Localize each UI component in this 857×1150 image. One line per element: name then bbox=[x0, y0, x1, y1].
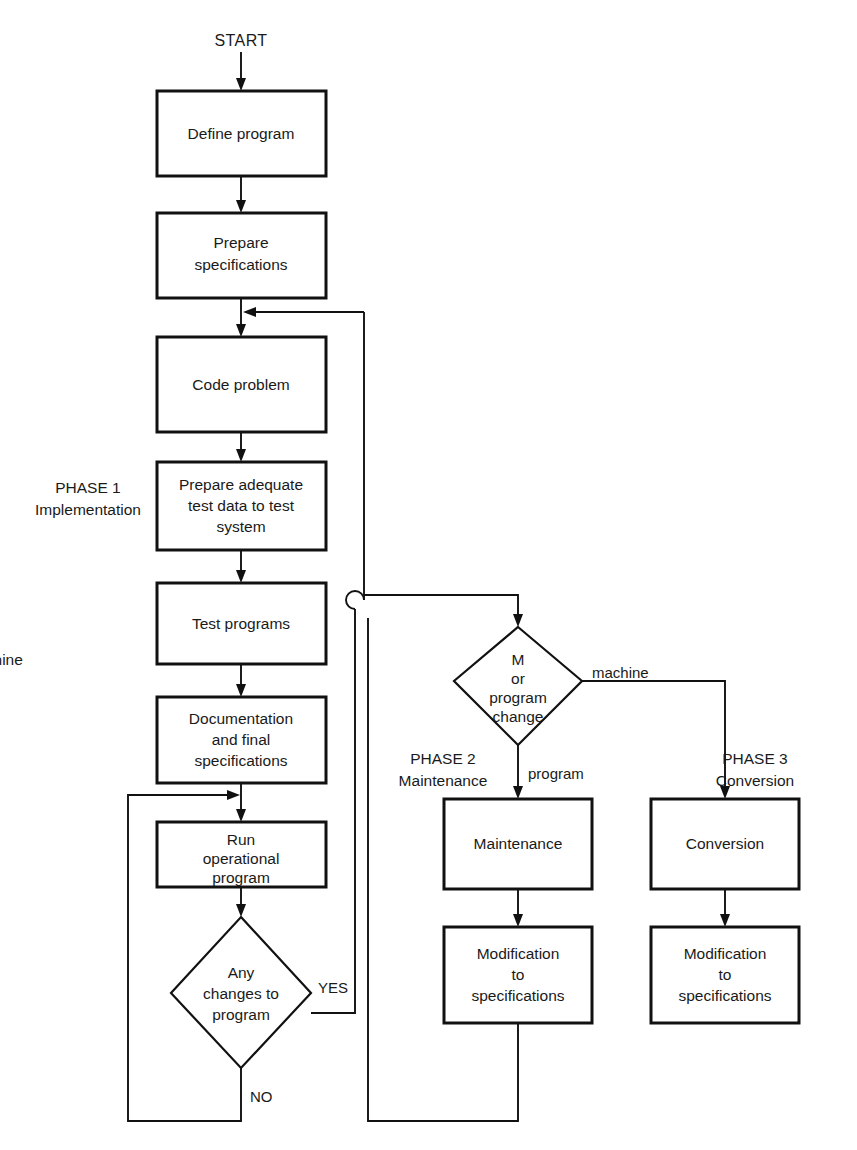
node-code-problem-line-0: Code problem bbox=[192, 376, 289, 393]
node-modspec2-line-1: to bbox=[512, 966, 525, 983]
node-modspec3-line-1: to bbox=[719, 966, 732, 983]
node-prepare-test-data[interactable]: Prepare adequate test data to test syste… bbox=[157, 462, 326, 550]
node-machine-line-1: or bbox=[511, 670, 525, 687]
node-modification-to-specifications-phase3[interactable]: Modification to specifications bbox=[651, 927, 799, 1023]
edge-yes-riser bbox=[311, 609, 355, 1013]
node-define-program[interactable]: Define program bbox=[157, 91, 326, 176]
flowchart-canvas: START Define program Prepare specificati… bbox=[0, 0, 857, 1150]
node-code-problem[interactable]: Code problem bbox=[157, 337, 326, 432]
arrowhead-anychanges bbox=[236, 904, 246, 917]
node-test-programs[interactable]: Test programs bbox=[157, 583, 326, 664]
node-any-changes-line-2: program bbox=[212, 1006, 270, 1023]
edge-label-yes: YES bbox=[318, 979, 348, 996]
node-prepare-specifications-line-1: specifications bbox=[194, 256, 287, 273]
edge-to-machine-diamond bbox=[364, 595, 518, 617]
phase-1-name: Implementation bbox=[35, 501, 141, 518]
arrowhead-prepare bbox=[236, 200, 246, 213]
edge-label-no: NO bbox=[250, 1088, 273, 1105]
edge-machine-to-conversion bbox=[582, 681, 725, 789]
node-modspec2-line-2: specifications bbox=[471, 987, 564, 1004]
node-run-line-1: operational bbox=[203, 850, 280, 867]
phase-2-number: PHASE 2 bbox=[410, 750, 475, 767]
node-machine-line-3: change bbox=[493, 708, 544, 725]
node-conversion-line-0: Conversion bbox=[686, 835, 764, 852]
node-any-changes-to-program[interactable]: Any changes to program bbox=[171, 917, 311, 1068]
node-modspec3-line-2: specifications bbox=[678, 987, 771, 1004]
node-prepare-specifications-line-0: Prepare bbox=[213, 234, 268, 251]
node-prepare-test-data-line-0: Prepare adequate bbox=[179, 476, 303, 493]
phase-label-1: PHASE 1 Implementation bbox=[35, 479, 141, 518]
edge-yes-hop bbox=[346, 591, 364, 609]
node-define-program-line-0: Define program bbox=[188, 125, 295, 142]
flowchart-svg: START Define program Prepare specificati… bbox=[0, 0, 857, 1150]
node-conversion[interactable]: Conversion bbox=[651, 799, 799, 889]
node-machine-line-2: program bbox=[489, 689, 547, 706]
edge-label-program: program bbox=[528, 765, 584, 782]
node-prepare-specifications[interactable]: Prepare specifications bbox=[157, 213, 326, 298]
node-documentation[interactable]: Documentation and final specifications bbox=[157, 697, 326, 783]
node-run-operational-program[interactable]: Run operational program bbox=[157, 822, 326, 887]
start-label: START bbox=[215, 32, 268, 49]
arrowhead-documentation bbox=[236, 684, 246, 697]
node-maintenance[interactable]: Maintenance bbox=[444, 799, 592, 889]
arrowhead-feedback-into-code bbox=[243, 307, 256, 317]
arrowhead-modspec3 bbox=[720, 914, 730, 927]
arrowhead-code bbox=[236, 324, 246, 337]
node-modspec2-line-0: Modification bbox=[477, 945, 560, 962]
arrowhead-testprograms bbox=[236, 570, 246, 583]
node-documentation-line-1: and final bbox=[212, 731, 271, 748]
node-run-line-0: Run bbox=[227, 831, 255, 848]
node-prepare-test-data-line-2: system bbox=[216, 518, 265, 535]
phase-label-2: PHASE 2 Maintenance bbox=[399, 750, 488, 789]
node-run-line-2: program bbox=[212, 869, 270, 886]
arrowhead-machine-diamond bbox=[513, 614, 523, 627]
node-modification-to-specifications-phase2[interactable]: Modification to specifications bbox=[444, 927, 592, 1023]
node-documentation-line-0: Documentation bbox=[189, 710, 293, 727]
node-maintenance-line-0: Maintenance bbox=[474, 835, 563, 852]
arrowhead-maintenance bbox=[513, 786, 523, 799]
node-test-programs-line-0: Test programs bbox=[192, 615, 290, 632]
edge-label-machine: machine bbox=[592, 664, 649, 681]
phase-1-number: PHASE 1 bbox=[55, 479, 120, 496]
node-documentation-line-2: specifications bbox=[194, 752, 287, 769]
node-prepare-test-data-line-1: test data to test bbox=[188, 497, 295, 514]
phase-2-name: Maintenance bbox=[399, 772, 488, 789]
phase-3-number: PHASE 3 bbox=[722, 750, 787, 767]
arrowhead-modspec2 bbox=[513, 914, 523, 927]
node-any-changes-line-0: Any bbox=[228, 964, 255, 981]
arrowhead-no-return bbox=[227, 790, 240, 800]
node-modspec3-line-0: Modification bbox=[684, 945, 767, 962]
arrowhead-run bbox=[236, 809, 246, 822]
node-any-changes-line-1: changes to bbox=[203, 985, 279, 1002]
arrowhead-testdata bbox=[236, 449, 246, 462]
phase-3-name: Conversion bbox=[716, 772, 794, 789]
phase-label-3: PHASE 3 Conversion bbox=[716, 750, 794, 789]
arrowhead-define bbox=[236, 78, 246, 91]
